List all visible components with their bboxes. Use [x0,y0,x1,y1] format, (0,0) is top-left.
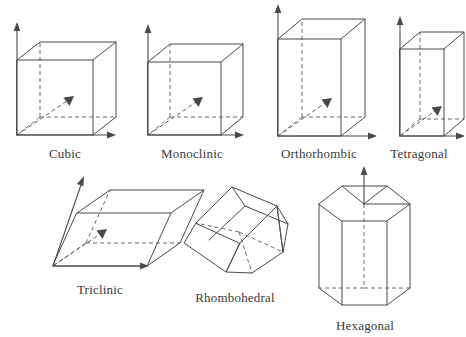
cubic-right-face [93,42,116,135]
tetragonal-axis-y-arrowhead [432,106,443,116]
triclinic-axis-z-arrowhead [77,176,84,186]
cubic-unit-cell [14,22,116,138]
label-triclinic: Triclinic [40,282,160,298]
cubic-axis-y [17,101,67,135]
monoclinic-front-face [148,62,221,135]
triclinic-front-face [53,213,171,266]
monoclinic-axis-y [148,102,196,135]
rhombohedral-right-edge [277,206,283,252]
triclinic-axis-y-arrowhead [97,229,108,239]
orthorhombic-unit-cell [275,4,377,139]
tetragonal-right-face [444,32,464,136]
label-monoclinic: Monoclinic [130,146,254,162]
triclinic-top-face [77,190,204,213]
cubic-hidden-diag [17,117,40,135]
monoclinic-axis-z-arrowhead [145,24,152,33]
crystal-systems-figure: Cubic Monoclinic Orthorhombic Tetragonal… [0,0,466,337]
tetragonal-axis-x-arrowhead [456,133,465,140]
cubic-axis-x-arrowhead [107,132,116,139]
hexagonal-axis-c-arrowhead [361,166,368,175]
monoclinic-axis-y-arrowhead [193,97,204,107]
tetragonal-top-face [400,32,464,49]
monoclinic-hidden-diag [148,117,170,135]
orthorhombic-axis-y-arrowhead [322,98,333,108]
rhombohedral-back-wall [232,187,288,224]
monoclinic-right-face [221,44,243,135]
tetragonal-front-face [400,49,444,136]
label-orthorhombic: Orthorhombic [258,146,380,162]
orthorhombic-axis-x-arrowhead [368,133,377,140]
tetragonal-axis-y [400,111,435,136]
orthorhombic-hidden-diag [278,117,302,136]
monoclinic-unit-cell [145,24,244,138]
hexagonal-unit-cell [319,166,410,305]
orthorhombic-axis-z-arrowhead [275,4,282,13]
label-tetragonal: Tetragonal [372,146,466,162]
label-cubic: Cubic [0,146,130,162]
triclinic-right-face [147,190,204,266]
orthorhombic-top-face [278,19,365,39]
cubic-axis-y-arrowhead [64,96,75,106]
label-rhombohedral: Rhombohedral [175,290,295,306]
orthorhombic-front-face [278,39,341,136]
tetragonal-axis-z-arrowhead [397,16,404,25]
rhombohedral-hidden-diag [196,223,239,232]
rhombohedral-hidden-horizontal [239,232,283,252]
triclinic-unit-cell [53,176,204,269]
cubic-axis-z-arrowhead [14,22,21,31]
rhombohedral-far-edge [283,224,288,252]
monoclinic-top-face [148,44,243,62]
tetragonal-unit-cell [397,16,465,139]
cubic-top-face [17,42,116,60]
triclinic-axis-z [53,182,82,266]
monoclinic-axis-x-arrowhead [235,132,244,139]
cubic-front-face [17,60,93,135]
label-hexagonal: Hexagonal [305,318,425,334]
rhombohedral-top-face [196,187,277,243]
hexagonal-bottom-front [319,288,410,305]
